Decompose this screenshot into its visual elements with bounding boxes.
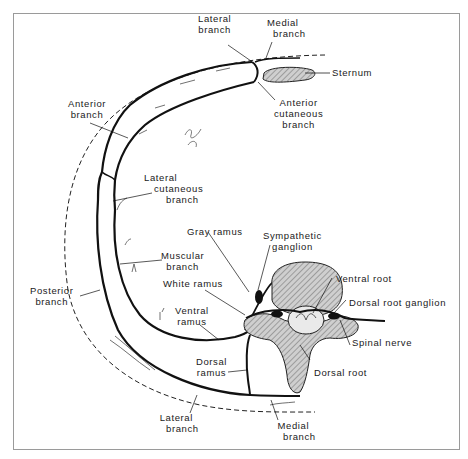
- label-anterior-branch: Anteriorbranch: [68, 98, 106, 120]
- label-sympathetic-ganglion: Sympatheticganglion: [263, 230, 322, 252]
- label-dorsal-root: Dorsal root: [314, 367, 367, 378]
- label-muscular-branch: Muscularbranch: [161, 250, 204, 272]
- label-lateral-branch-bottom: Lateralbranch: [154, 412, 199, 434]
- label-white-ramus: White ramus: [163, 278, 223, 289]
- dorsal-root-ganglion-shape: [328, 313, 340, 320]
- sternum-shape: [263, 67, 315, 82]
- label-sternum: Sternum: [332, 67, 372, 78]
- label-medial-branch-top: Medialbranch: [267, 17, 306, 39]
- label-medial-branch-bottom: Medialbranch: [271, 420, 316, 442]
- label-ventral-ramus: Ventralramus: [175, 305, 209, 327]
- dorsal-ramus-nerve: [247, 335, 250, 396]
- label-ventral-root: Ventral root: [336, 273, 392, 284]
- label-gray-ramus: Gray ramus: [187, 226, 243, 237]
- label-lateral-cutaneous-branch: Lateralcutaneousbranch: [144, 172, 203, 205]
- label-dorsal-root-ganglion: Dorsal root ganglion: [349, 297, 446, 308]
- label-posterior-branch: Posteriorbranch: [30, 285, 73, 307]
- label-anterior-cutaneous-branch: Anteriorcutaneousbranch: [274, 97, 323, 130]
- label-lateral-branch-top: Lateralbranch: [198, 13, 231, 35]
- label-spinal-nerve: Spinal nerve: [352, 337, 412, 348]
- sympathetic-ganglion-shape: [255, 290, 263, 304]
- inner-nerve-arc: [114, 82, 265, 340]
- artist-signature: [185, 129, 201, 147]
- label-dorsal-ramus: Dorsalramus: [196, 356, 227, 378]
